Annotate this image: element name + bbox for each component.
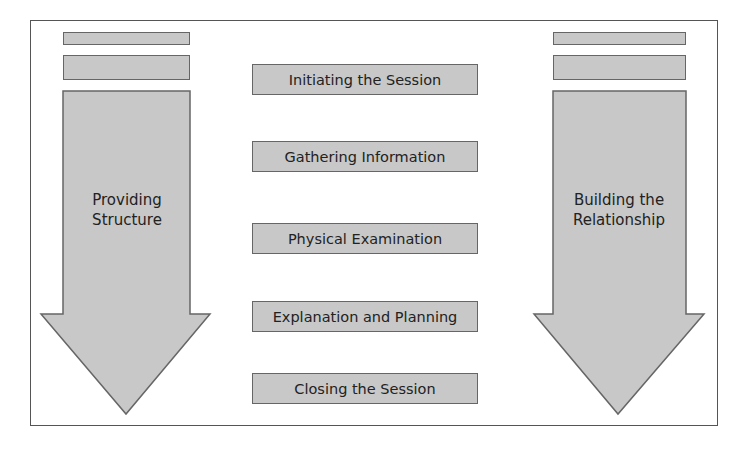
stage-explanation: Explanation and Planning: [252, 301, 478, 332]
right-arrow-label-line1: Building the: [539, 190, 699, 210]
stage-gathering: Gathering Information: [252, 141, 478, 172]
left-arrow-label: Providing Structure: [47, 190, 207, 230]
right-arrow-label: Building the Relationship: [539, 190, 699, 230]
right-arrow-label-line2: Relationship: [539, 210, 699, 230]
stage-physical-exam: Physical Examination: [252, 223, 478, 254]
right-down-arrow: [534, 91, 704, 414]
left-down-arrow: [41, 91, 210, 414]
stage-closing: Closing the Session: [252, 373, 478, 404]
stage-initiating: Initiating the Session: [252, 64, 478, 95]
left-arrow-label-line1: Providing: [47, 190, 207, 210]
left-arrow-label-line2: Structure: [47, 210, 207, 230]
